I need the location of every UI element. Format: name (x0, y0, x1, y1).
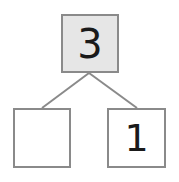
left-part-box[interactable] (13, 108, 71, 168)
left-connector (42, 73, 89, 108)
right-connector (89, 73, 137, 108)
whole-value: 3 (77, 21, 102, 67)
whole-box: 3 (61, 14, 119, 73)
right-part-value: 1 (124, 116, 148, 160)
right-part-box: 1 (107, 108, 166, 168)
